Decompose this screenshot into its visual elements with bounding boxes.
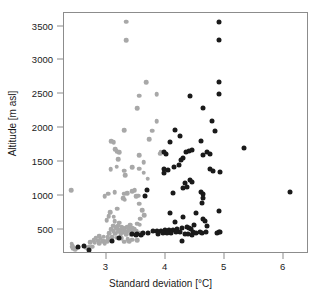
data-point [172,219,177,224]
y-axis-tick-label: 3500 [32,20,53,31]
data-point [141,160,146,165]
x-axis-tick-label: 3 [103,261,108,272]
data-point [102,241,107,246]
data-point [217,230,222,235]
data-point [102,194,107,199]
data-point [146,177,151,182]
data-point [117,235,122,240]
data-point [145,231,150,236]
data-point [180,239,185,244]
data-point [135,106,140,111]
data-point [114,164,119,169]
data-point [142,213,147,218]
data-point [150,229,155,234]
data-point [116,157,121,162]
data-point [177,162,182,167]
data-point [112,190,117,195]
data-point [144,188,149,193]
data-point [115,206,120,211]
x-axis-tick-label: 5 [221,261,226,272]
y-axis-title: Altitude [m asl] [7,64,18,184]
data-point [135,238,140,243]
x-axis-tick-mark [223,253,224,259]
data-point [198,138,203,143]
data-point [150,128,155,133]
data-point [110,239,115,244]
x-axis-tick-mark [105,253,106,259]
y-axis-tick-label: 1500 [32,155,53,166]
data-point [209,119,214,124]
x-axis-tick-label: 6 [280,261,285,272]
plot-area [63,12,308,253]
y-axis-tick-label: 2000 [32,122,53,133]
data-point [156,231,161,236]
y-axis-tick-label: 3000 [32,54,53,65]
x-axis-title: Standard deviation [°C] [0,278,321,289]
data-point [137,202,142,207]
data-point [130,165,135,170]
data-point [188,93,193,98]
x-axis-tick-label: 4 [162,261,167,272]
data-point [124,232,129,237]
data-point [123,198,128,203]
data-point [141,170,146,175]
data-point [86,247,91,252]
data-point [204,223,209,228]
data-point [154,119,159,124]
y-axis-tick-mark [57,228,63,229]
data-point [169,230,174,235]
data-point [97,241,102,246]
data-point [82,243,87,248]
data-point [154,92,159,97]
data-point [163,151,168,156]
data-point [134,194,139,199]
data-point [142,193,147,198]
data-point [137,153,142,158]
y-axis-tick-label: 1000 [32,189,53,200]
data-point [111,140,116,145]
data-point [216,19,221,24]
data-point [124,20,129,25]
data-point [161,171,166,176]
data-point [137,166,142,171]
data-point [183,149,188,154]
y-axis-tick-label: 500 [37,223,53,234]
data-point [181,186,186,191]
data-point [216,38,221,43]
data-point [140,208,145,213]
data-point [287,190,292,195]
data-point [127,239,132,244]
data-point [200,200,205,205]
data-point [213,128,218,133]
data-point [168,139,173,144]
data-point [108,167,113,172]
y-axis-tick-mark [57,59,63,60]
data-point [216,208,221,213]
data-point [170,191,175,196]
data-point [189,232,194,237]
data-point [172,164,177,169]
data-point [216,92,221,97]
data-point [201,153,206,158]
data-point [104,218,109,223]
data-point [130,232,135,237]
data-point [124,38,129,43]
data-point [69,188,74,193]
data-point [117,150,122,155]
scatter-plot-figure: 500100015002000250030003500 Standard dev… [0,0,321,301]
data-point [147,137,152,142]
data-point [144,80,149,85]
data-point [123,173,128,178]
y-axis-tick-mark [57,160,63,161]
data-point [242,145,247,150]
y-axis-tick-mark [57,25,63,26]
x-axis-tick-mark [164,253,165,259]
y-axis-tick-mark [57,194,63,195]
data-point [194,211,199,216]
data-point [190,179,195,184]
data-point [76,244,81,249]
data-point [181,215,186,220]
data-point [137,93,142,98]
data-point [178,133,183,138]
data-point [137,222,142,227]
